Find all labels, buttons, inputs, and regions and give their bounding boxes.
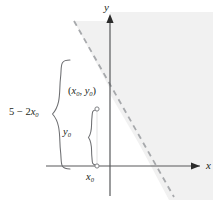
y0-segment-label: y0 xyxy=(63,127,71,138)
x0-position-label: x0 xyxy=(86,172,94,183)
brace-expression-label: 5 − 2x0 xyxy=(9,107,39,118)
shaded-half-plane-upper-fill xyxy=(110,12,213,200)
figure-canvas xyxy=(0,0,218,206)
expr-minus: − xyxy=(14,106,25,117)
point-marker-x0y0 xyxy=(95,107,99,111)
y-axis-label: y xyxy=(104,2,109,13)
x0-sub: 0 xyxy=(91,176,94,183)
math-figure: y x (x0, y0) y0 x0 5 − 2x0 xyxy=(0,0,218,206)
brace-y0 xyxy=(89,110,97,165)
y0-sub: 0 xyxy=(68,131,71,138)
point-marker-x0-foot xyxy=(95,164,99,168)
point-coordinate-label: (x0, y0) xyxy=(68,86,96,97)
paren-close: ) xyxy=(93,85,97,96)
brace-expression xyxy=(53,60,71,169)
shaded-region-group xyxy=(74,12,213,200)
expr-subscript: 0 xyxy=(35,111,38,118)
x-axis-label: x xyxy=(206,160,211,171)
